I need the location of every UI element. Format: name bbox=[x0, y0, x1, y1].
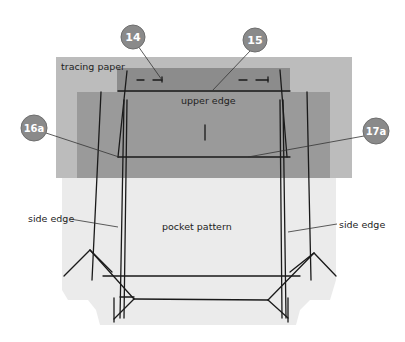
svg-text:14: 14 bbox=[125, 31, 141, 44]
tracing-paper-label: tracing paper bbox=[61, 61, 125, 72]
svg-text:16a: 16a bbox=[24, 123, 45, 134]
callout-14: 14 bbox=[121, 25, 145, 49]
side-edge-right-label: side edge bbox=[339, 219, 385, 230]
svg-text:15: 15 bbox=[247, 34, 262, 47]
svg-text:17a: 17a bbox=[366, 126, 387, 137]
pocket-pattern-label: pocket pattern bbox=[162, 221, 232, 232]
callout-15: 15 bbox=[243, 28, 267, 52]
pocket-tracing-diagram: tracing paper upper edge pocket pattern … bbox=[0, 0, 405, 342]
callout-17a: 17a bbox=[363, 118, 389, 144]
pocket-pattern-paper bbox=[62, 178, 336, 325]
side-edge-left-label: side edge bbox=[28, 213, 74, 224]
callout-16a: 16a bbox=[21, 115, 47, 141]
upper-edge-label: upper edge bbox=[181, 95, 236, 106]
